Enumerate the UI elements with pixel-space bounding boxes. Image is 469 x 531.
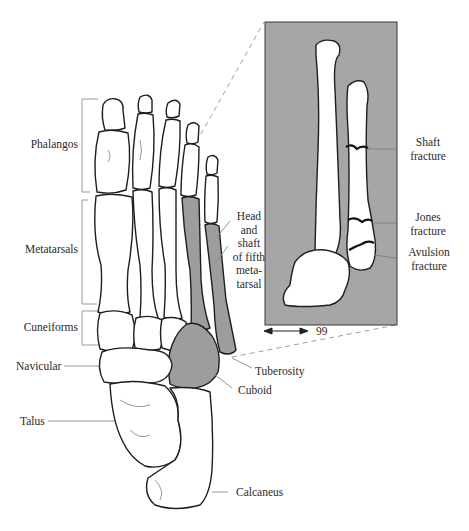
foot-anatomy-diagram: Phalangos Metatarsals Cuneiforms Navicul… <box>0 0 469 531</box>
label-metatarsals: Metatarsals <box>14 242 78 256</box>
fracture-inset-panel <box>264 22 397 334</box>
label-avulsion-fracture: Avulsion fracture <box>398 245 460 273</box>
label-tuberosity: Tuberosity <box>255 364 304 378</box>
label-talus: Talus <box>20 414 45 428</box>
foot-bones <box>95 95 236 508</box>
label-cuboid: Cuboid <box>238 383 272 397</box>
label-cuneiforms: Cuneiforms <box>14 320 78 334</box>
scale-label: 99 <box>316 324 328 338</box>
label-navicular: Navicular <box>16 359 61 373</box>
label-fifth-metatarsal: Head and shaft of fifth meta- tarsal <box>229 210 269 291</box>
label-phalanges: Phalangos <box>30 137 78 151</box>
label-jones-fracture: Jones fracture <box>400 210 456 238</box>
label-calcaneus: Calcaneus <box>236 485 283 499</box>
scale-arrow <box>264 328 308 334</box>
label-shaft-fracture: Shaft fracture <box>400 135 456 163</box>
